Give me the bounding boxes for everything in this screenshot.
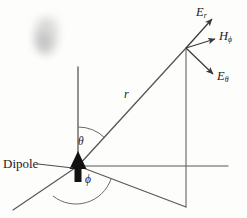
ground-projection-line — [78, 166, 186, 207]
E-theta-vector-arrow — [186, 48, 213, 74]
label-H-phi: Hϕ — [219, 30, 232, 43]
dipole-arrow-icon — [70, 151, 87, 182]
label-E-r-subscript: r — [204, 11, 207, 20]
figure-canvas — [0, 0, 247, 218]
label-dipole: Dipole — [3, 157, 38, 170]
label-E-r-base: E — [196, 5, 204, 19]
label-E-theta-base: E — [217, 69, 225, 83]
phi-angle-arc — [53, 179, 111, 204]
radius-line-r — [78, 48, 186, 166]
label-radius-r: r — [124, 88, 129, 100]
label-E-r: Er — [196, 6, 207, 19]
dipole-leader-line — [38, 164, 73, 168]
scan-smudge-artifact — [34, 17, 58, 55]
label-E-theta: Eθ — [217, 70, 228, 83]
label-angle-theta: θ — [78, 136, 84, 148]
label-E-theta-subscript: θ — [225, 75, 229, 84]
label-angle-phi: ϕ — [85, 174, 91, 186]
dipole-coordinate-figure: Er Hϕ Eθ r θ ϕ Dipole — [0, 0, 247, 218]
label-H-phi-subscript: ϕ — [228, 35, 232, 44]
label-H-phi-base: H — [219, 29, 228, 43]
